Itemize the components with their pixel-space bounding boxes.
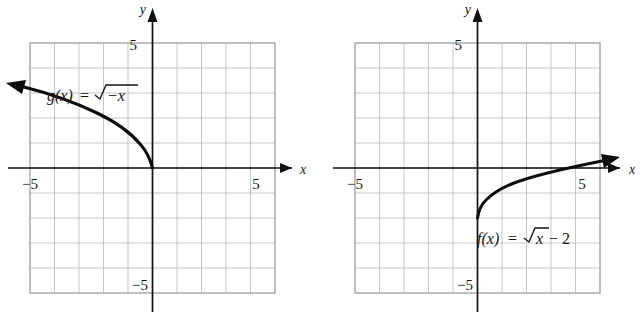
function-name-f: f(x) <box>477 230 499 248</box>
y-tick-negative-label: −5 <box>132 277 148 293</box>
x-axis-label: x <box>628 162 636 177</box>
radicand-g: −x <box>107 87 125 104</box>
graph-panel-left: 5 −5 −5 5 x y g(x) = −x <box>0 0 320 317</box>
x-axis-label: x <box>299 162 307 177</box>
equals-sign-f: = <box>508 230 517 247</box>
graph-panel-right: 5 −5 −5 5 x y f(x) = x − 2 <box>320 0 640 317</box>
y-tick-positive-label: 5 <box>455 37 463 53</box>
equals-sign-g: = <box>80 87 89 104</box>
x-tick-positive-label: 5 <box>578 176 586 192</box>
function-name-g: g(x) <box>47 87 73 105</box>
y-tick-positive-label: 5 <box>130 37 138 53</box>
two-graph-figure: 5 −5 −5 5 x y g(x) = −x <box>0 0 640 317</box>
y-axis-label: y <box>463 2 472 17</box>
function-label-g: g(x) = −x <box>47 85 138 105</box>
x-axis-right <box>333 163 620 173</box>
y-tick-negative-label: −5 <box>457 277 473 293</box>
y-axis-label: y <box>138 2 147 17</box>
curve-f <box>478 154 621 218</box>
x-tick-negative-label: −5 <box>22 176 38 192</box>
radicand-f: x <box>535 230 543 247</box>
function-label-f: f(x) = x − 2 <box>477 228 570 248</box>
x-tick-positive-label: 5 <box>252 176 260 192</box>
y-axis-right <box>473 8 483 312</box>
x-tick-negative-label: −5 <box>347 176 363 192</box>
suffix-f: − 2 <box>549 230 570 247</box>
